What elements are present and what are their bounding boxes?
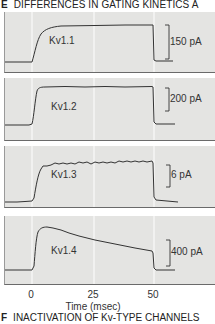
- kv1-3-current-trace: [5, 161, 178, 202]
- x-tick-25: 25: [87, 289, 98, 300]
- figure-title: EDIFFERENCES IN GATING KINETICS A: [1, 0, 199, 10]
- figure-title-text: DIFFERENCES IN GATING KINETICS A: [14, 0, 199, 10]
- kv1-2-trace-plot: [5, 78, 215, 140]
- trace-label-kv1-4: Kv1.4: [51, 245, 77, 256]
- panel-letter-e: E: [1, 0, 8, 10]
- trace-label-kv1-3: Kv1.3: [51, 169, 77, 180]
- trace-label-kv1-2: Kv1.2: [51, 101, 77, 112]
- next-figure-title-text: INACTIVATION OF Kv-TYPE CHANNELS: [13, 312, 199, 323]
- trace-panel-kv1-3: Kv1.3 6 pA: [4, 146, 215, 208]
- trace-label-kv1-1: Kv1.1: [49, 35, 75, 46]
- scale-label-400pa: 400 pA: [171, 246, 203, 257]
- scale-bar-6pa: [166, 165, 170, 187]
- scale-label-200pa: 200 pA: [170, 93, 202, 104]
- kv1-1-current-trace: [5, 25, 173, 62]
- kv1-4-current-trace: [5, 227, 175, 270]
- trace-panel-kv1-4: Kv1.4 400 pA: [4, 216, 215, 285]
- panel-letter-f: F: [1, 312, 7, 323]
- scale-bar-400pa: [166, 240, 170, 266]
- scale-label-150pa: 150 pA: [170, 36, 202, 47]
- trace-panel-kv1-2: Kv1.2 200 pA: [4, 78, 215, 141]
- kv1-2-current-trace: [5, 87, 175, 126]
- trace-panel-kv1-1: Kv1.1 150 pA: [4, 12, 215, 73]
- x-axis-label: Time (msec): [65, 301, 120, 312]
- scale-bar-150pa: [165, 25, 169, 59]
- x-tick-0: 0: [28, 289, 34, 300]
- scale-label-6pa: 6 pA: [171, 169, 192, 180]
- scale-bar-200pa: [165, 88, 169, 111]
- next-figure-title: FINACTIVATION OF Kv-TYPE CHANNELS: [1, 312, 199, 323]
- x-tick-50: 50: [147, 289, 158, 300]
